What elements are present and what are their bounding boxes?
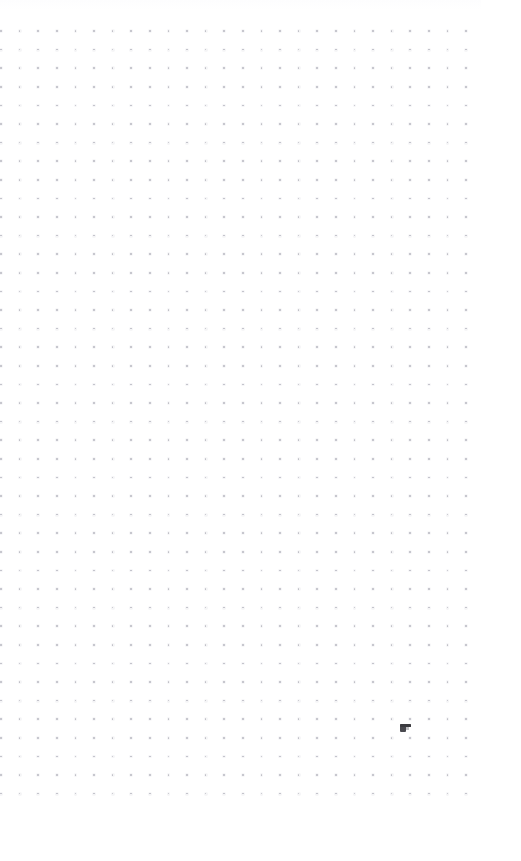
grid-dot xyxy=(168,514,170,516)
grid-dot xyxy=(298,253,300,255)
grid-dot xyxy=(75,123,77,125)
grid-dot xyxy=(242,458,244,460)
grid-dot xyxy=(112,253,114,255)
grid-dot xyxy=(186,235,188,237)
grid-dot xyxy=(168,532,170,534)
grid-dot xyxy=(372,458,374,460)
grid-dot xyxy=(56,49,58,51)
grid-dot xyxy=(391,774,393,776)
grid-dot xyxy=(93,309,95,311)
grid-dot xyxy=(354,235,356,237)
grid-dot xyxy=(56,384,58,386)
grid-dot xyxy=(186,495,188,497)
grid-dot xyxy=(447,272,449,274)
grid-dot xyxy=(372,439,374,441)
grid-dot xyxy=(447,216,449,218)
grid-dot xyxy=(205,123,207,125)
grid-dot xyxy=(354,198,356,200)
grid-dot xyxy=(19,439,21,441)
grid-dot xyxy=(391,49,393,51)
grid-dot xyxy=(261,718,263,720)
grid-dot xyxy=(19,309,21,311)
grid-dot xyxy=(409,532,411,534)
grid-dot xyxy=(447,532,449,534)
grid-dot xyxy=(0,718,2,720)
grid-dot xyxy=(242,253,244,255)
grid-dot xyxy=(56,179,58,181)
grid-dot xyxy=(112,551,114,553)
grid-dot xyxy=(298,421,300,423)
grid-dot xyxy=(298,700,300,702)
grid-dot xyxy=(428,607,430,609)
grid-dot xyxy=(56,309,58,311)
grid-dot xyxy=(186,272,188,274)
grid-dot xyxy=(242,421,244,423)
grid-dot xyxy=(75,235,77,237)
grid-dot xyxy=(19,160,21,162)
grid-dot xyxy=(279,198,281,200)
grid-dot xyxy=(130,588,132,590)
grid-dot xyxy=(335,216,337,218)
grid-dot xyxy=(428,198,430,200)
grid-dot xyxy=(409,663,411,665)
grid-dot xyxy=(242,700,244,702)
grid-dot xyxy=(465,625,467,627)
grid-dot xyxy=(409,384,411,386)
grid-dot xyxy=(354,607,356,609)
grid-dot xyxy=(335,532,337,534)
grid-dot xyxy=(37,774,39,776)
grid-dot xyxy=(130,328,132,330)
grid-dot xyxy=(335,198,337,200)
dot-grid-surface[interactable] xyxy=(0,0,521,861)
grid-dot xyxy=(168,123,170,125)
grid-dot xyxy=(298,49,300,51)
grid-dot xyxy=(335,123,337,125)
grid-dot xyxy=(428,570,430,572)
grid-dot xyxy=(186,607,188,609)
grid-dot xyxy=(19,142,21,144)
grid-dot xyxy=(56,216,58,218)
grid-dot xyxy=(447,253,449,255)
grid-dot xyxy=(19,49,21,51)
grid-dot xyxy=(279,346,281,348)
grid-dot xyxy=(56,737,58,739)
grid-dot xyxy=(149,179,151,181)
grid-dot xyxy=(75,495,77,497)
grid-dot xyxy=(298,105,300,107)
grid-dot xyxy=(316,235,318,237)
grid-dot xyxy=(186,346,188,348)
grid-dot xyxy=(372,309,374,311)
grid-dot xyxy=(19,291,21,293)
grid-dot xyxy=(316,384,318,386)
grid-dot xyxy=(465,718,467,720)
grid-dot xyxy=(75,105,77,107)
grid-dot xyxy=(130,607,132,609)
grid-dot xyxy=(335,86,337,88)
grid-dot xyxy=(372,588,374,590)
grid-dot xyxy=(428,514,430,516)
grid-dot xyxy=(428,495,430,497)
grid-dot xyxy=(242,718,244,720)
grid-dot xyxy=(130,86,132,88)
grid-dot xyxy=(447,105,449,107)
grid-dot xyxy=(19,644,21,646)
grid-dot xyxy=(93,365,95,367)
grid-dot xyxy=(168,681,170,683)
grid-dot xyxy=(93,291,95,293)
grid-dot xyxy=(465,793,467,795)
grid-dot xyxy=(205,421,207,423)
grid-dot xyxy=(298,198,300,200)
grid-dot xyxy=(93,756,95,758)
grid-dot xyxy=(56,607,58,609)
grid-dot xyxy=(112,346,114,348)
grid-dot xyxy=(354,644,356,646)
grid-dot xyxy=(186,67,188,69)
grid-dot xyxy=(37,756,39,758)
grid-dot xyxy=(354,514,356,516)
grid-dot xyxy=(428,588,430,590)
grid-dot xyxy=(168,291,170,293)
grid-dot xyxy=(56,644,58,646)
grid-dot xyxy=(19,328,21,330)
grid-dot xyxy=(19,105,21,107)
grid-dot xyxy=(465,272,467,274)
